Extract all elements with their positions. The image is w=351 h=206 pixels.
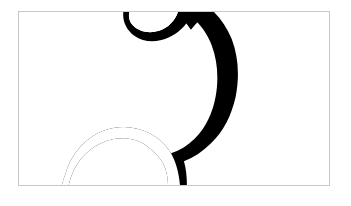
image-frame [18, 11, 330, 186]
image-canvas: A framed rectangular panel divided by a … [0, 0, 351, 206]
abstract-artwork [19, 12, 329, 185]
